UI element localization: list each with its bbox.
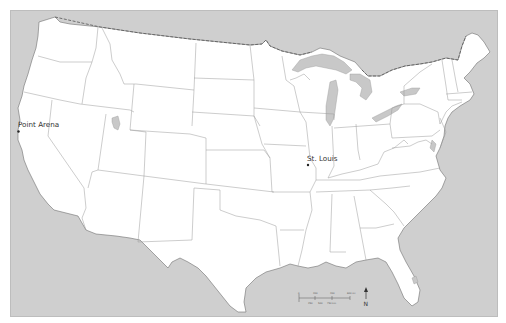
st-louis-marker [307, 164, 309, 166]
scale-km-label-2: 500 [318, 302, 323, 305]
scale-km-label-1: 250 [308, 302, 313, 305]
scale-bar: 0 200 400 600 mi 250 500 750 km [298, 292, 356, 305]
us-landmass [18, 17, 490, 312]
st-louis-label: St. Louis [307, 154, 338, 163]
scale-label-3: 600 mi [347, 292, 356, 295]
scale-label-2: 400 [330, 292, 335, 295]
scale-km-label-3: 750 km [327, 302, 337, 305]
point-arena-label: Point Arena [18, 120, 59, 129]
north-arrow: N [364, 287, 369, 307]
point-arena-marker [17, 130, 19, 132]
north-label: N [364, 300, 369, 307]
scale-label-0: 0 [298, 292, 300, 295]
us-map: Point Arena St. Louis 0 200 400 600 mi 2… [0, 0, 506, 323]
scale-label-1: 200 [313, 292, 318, 295]
